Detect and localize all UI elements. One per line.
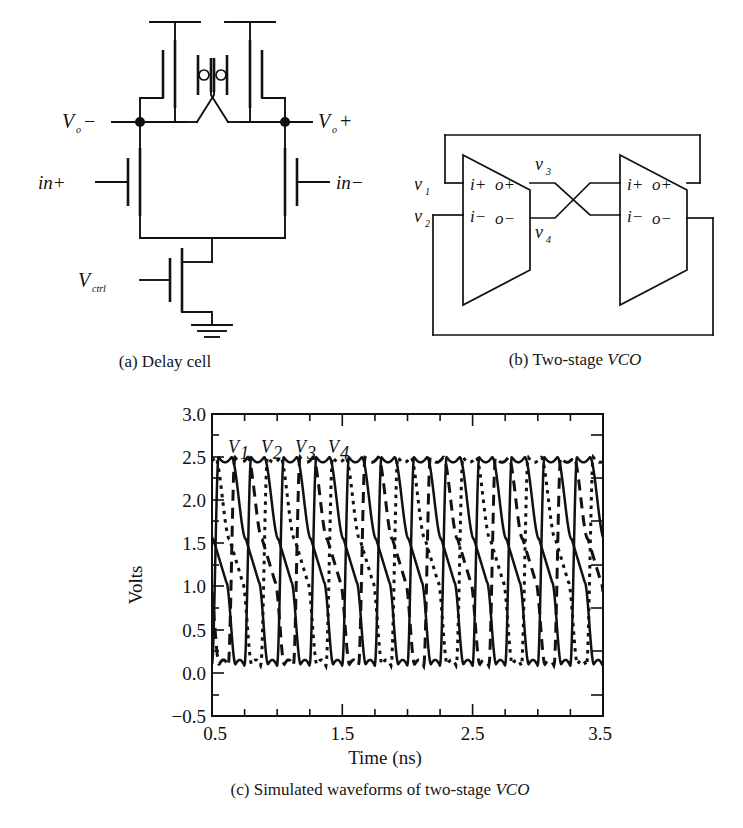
label-stage1-i-plus: i+ xyxy=(470,175,486,194)
waveform-plot: 3.0 2.5 2.0 1.5 1.0 0.5 0.0 −0.5 xyxy=(120,395,640,740)
panel-waveform-chart: 3.0 2.5 2.0 1.5 1.0 0.5 0.0 −0.5 xyxy=(120,395,640,795)
y-tick-label: 2.0 xyxy=(182,490,206,511)
caption-panel-b: (b) Two-stage VCO xyxy=(435,350,715,370)
label-v1-sub: 1 xyxy=(425,186,430,197)
delay-cell-schematic: V o − V o + in+ in− V ctrl xyxy=(0,0,400,345)
x-axis-title: Time (ns) xyxy=(260,747,510,769)
label-vctrl: V xyxy=(78,269,93,291)
label-vo-minus-sub: o xyxy=(76,124,81,135)
caption-panel-c: (c) Simulated waveforms of two-stage VCO xyxy=(130,780,630,800)
label-stage2-i-minus: i− xyxy=(627,207,643,226)
label-stage2-i-plus: i+ xyxy=(627,175,643,194)
y-tick-label: 2.5 xyxy=(182,447,206,468)
panel-delay-cell: V o − V o + in+ in− V ctrl (a) xyxy=(0,0,400,345)
label-v2-sub: 2 xyxy=(425,218,430,229)
label-v3-sub: 3 xyxy=(545,166,551,177)
waveform-traces xyxy=(212,457,603,666)
label-v3: v xyxy=(535,154,543,174)
y-tick-label: 0.0 xyxy=(182,663,206,684)
x-tick-labels: 0.5 1.5 2.5 3.5 xyxy=(203,723,612,740)
caption-b-italic: VCO xyxy=(607,350,641,369)
label-stage1-o-plus: o+ xyxy=(495,175,515,194)
y-tick-label: −0.5 xyxy=(172,706,206,727)
label-in-plus: in+ xyxy=(38,172,66,193)
label-vo-minus-sign: − xyxy=(84,110,95,132)
y-tick-label: 1.0 xyxy=(182,576,206,597)
label-v2: v xyxy=(415,206,422,226)
label-stage1-o-minus: o− xyxy=(495,209,515,228)
label-in-minus: in− xyxy=(336,172,364,193)
label-stage2-o-plus: o+ xyxy=(652,175,672,194)
label-vctrl-sub: ctrl xyxy=(92,283,106,294)
y-tick-label: 1.5 xyxy=(182,533,206,554)
caption-b-plain: (b) Two-stage xyxy=(509,350,608,369)
y-axis-title: Volts xyxy=(125,566,146,605)
vco-block-diagram: v 1 v 2 i+ o+ i− o− i+ o+ i− o− v 3 v 4 xyxy=(415,120,735,350)
label-vo-plus-sub: o xyxy=(332,124,337,135)
label-vo-plus: V xyxy=(318,110,333,132)
trace-v3 xyxy=(212,457,603,666)
label-vo-minus: V xyxy=(62,110,77,132)
caption-c-italic: VCO xyxy=(495,780,529,799)
label-v4: v xyxy=(535,222,543,242)
x-tick-label: 0.5 xyxy=(203,723,227,740)
label-vo-plus-sign: + xyxy=(340,110,351,132)
label-v4-sub: 4 xyxy=(546,234,551,245)
label-stage1-i-minus: i− xyxy=(470,207,486,226)
caption-c-plain: (c) Simulated waveforms of two-stage xyxy=(231,780,496,799)
y-tick-labels: 3.0 2.5 2.0 1.5 1.0 0.5 0.0 −0.5 xyxy=(172,404,206,727)
x-tick-label: 3.5 xyxy=(588,723,612,740)
label-v1: v xyxy=(415,174,422,194)
label-stage2-o-minus: o− xyxy=(652,209,672,228)
panel-two-stage-vco: v 1 v 2 i+ o+ i− o− i+ o+ i− o− v 3 v 4 … xyxy=(415,120,735,350)
x-tick-label: 2.5 xyxy=(461,723,485,740)
caption-panel-a: (a) Delay cell xyxy=(0,352,330,372)
y-tick-label: 3.0 xyxy=(182,404,206,425)
x-tick-label: 1.5 xyxy=(330,723,354,740)
y-tick-label: 0.5 xyxy=(182,620,206,641)
